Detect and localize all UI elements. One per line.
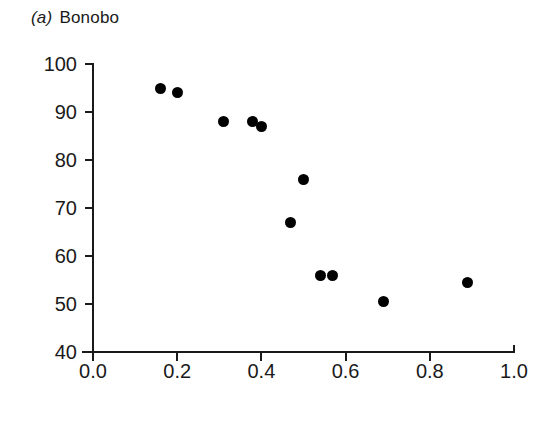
y-tick-label-90: 90 bbox=[55, 102, 77, 122]
data-point bbox=[327, 270, 338, 281]
scatter-plot-figure: (a)Bonobo 405060708090100 0.00.20.40.60.… bbox=[0, 0, 555, 424]
y-tick-label-100: 100 bbox=[44, 54, 77, 74]
data-point bbox=[315, 270, 326, 281]
y-tick-label-70: 70 bbox=[55, 198, 77, 218]
data-point bbox=[172, 87, 183, 98]
panel-label: Bonobo bbox=[59, 8, 119, 27]
panel-title: (a)Bonobo bbox=[31, 8, 119, 28]
y-tick-100 bbox=[85, 63, 93, 65]
y-tick-70 bbox=[85, 207, 93, 209]
y-tick-90 bbox=[85, 111, 93, 113]
data-point bbox=[462, 277, 473, 288]
x-tick-label-0.6: 0.6 bbox=[316, 361, 376, 381]
data-point bbox=[155, 83, 166, 94]
y-tick-80 bbox=[85, 159, 93, 161]
data-point bbox=[298, 174, 309, 185]
x-tick-label-0.0: 0.0 bbox=[63, 361, 123, 381]
data-point bbox=[256, 121, 267, 132]
y-tick-50 bbox=[85, 303, 93, 305]
y-tick-label-40: 40 bbox=[55, 342, 77, 362]
x-tick-label-1.0: 1.0 bbox=[484, 361, 544, 381]
x-tick-label-0.2: 0.2 bbox=[147, 361, 207, 381]
y-tick-label-80: 80 bbox=[55, 150, 77, 170]
y-tick-label-60: 60 bbox=[55, 246, 77, 266]
plot-area bbox=[93, 64, 514, 352]
panel-tag: (a) bbox=[31, 8, 52, 27]
data-point bbox=[218, 116, 229, 127]
y-tick-60 bbox=[85, 255, 93, 257]
x-tick-label-0.4: 0.4 bbox=[231, 361, 291, 381]
y-tick-label-50: 50 bbox=[55, 294, 77, 314]
data-point bbox=[285, 217, 296, 228]
x-tick-label-0.8: 0.8 bbox=[400, 361, 460, 381]
data-point bbox=[378, 296, 389, 307]
